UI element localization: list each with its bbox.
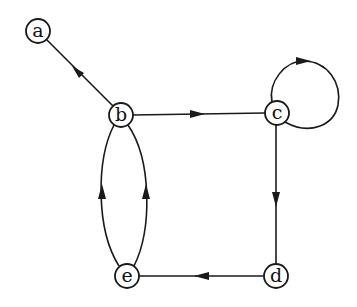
node-a[interactable]: a [26,19,50,43]
edge-b-to-c [133,110,265,118]
node-label-e: e [121,264,132,286]
node-e[interactable]: e [115,264,139,288]
edge-d-to-e [139,272,264,280]
arrowhead-icon [296,57,311,65]
arrowhead-icon [142,184,150,199]
arrowhead-icon [190,110,205,118]
node-label-a: a [32,19,43,41]
directed-graph: a b c d e [0,0,357,307]
edge-e-to-b-left [98,125,119,266]
node-c[interactable]: c [265,101,289,125]
edge-c-to-d [272,125,280,264]
arrowhead-icon [272,192,280,207]
edge-e-to-b-right [128,125,150,266]
edge-b-to-a [46,39,113,106]
node-label-b: b [115,103,127,125]
node-b[interactable]: b [109,103,133,127]
node-d[interactable]: d [264,264,288,288]
node-label-c: c [272,101,283,123]
arrowhead-icon [194,272,209,280]
node-label-d: d [270,264,282,286]
arrowhead-icon [98,184,106,199]
